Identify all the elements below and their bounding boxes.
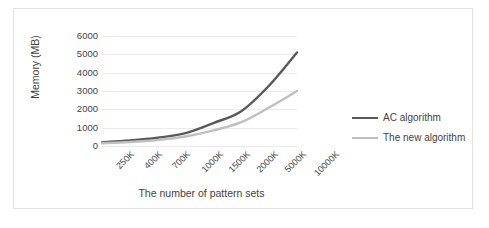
x-axis-tick-label: 2000K: [255, 149, 280, 174]
x-axis-tick-label: 5000K: [283, 149, 308, 174]
x-axis-tick-labels: 250K400K700K1000K1500K2000K5000K10000K: [102, 149, 297, 183]
y-axis-title: Memory (MB): [29, 25, 41, 109]
series-line: [102, 53, 297, 143]
legend-label: The new algorithm: [383, 132, 465, 144]
y-axis-tick-label: 6000: [60, 31, 98, 41]
x-axis-title: The number of pattern sets: [64, 187, 339, 199]
x-axis-tick-label: 1500K: [227, 149, 252, 174]
y-axis-tick-label: 3000: [60, 86, 98, 96]
gridline: [102, 146, 297, 147]
chart-legend: AC algorithmThe new algorithm: [352, 108, 482, 148]
y-axis-tick-label: 0: [60, 141, 98, 151]
x-axis-tick-label: 400K: [142, 149, 164, 171]
y-axis-tick-label: 4000: [60, 68, 98, 78]
legend-line-swatch: [352, 137, 378, 139]
y-axis-tick-label: 2000: [60, 104, 98, 114]
plot-area: [102, 36, 297, 146]
x-axis-tick-label: 1000K: [199, 149, 224, 174]
x-axis-tick-label: 10000K: [312, 149, 341, 178]
series-lines: [102, 36, 297, 146]
y-axis-tick-labels: 0100020003000400050006000: [60, 29, 98, 153]
x-axis-tick-label: 250K: [114, 149, 136, 171]
y-axis-tick-label: 1000: [60, 123, 98, 133]
legend-line-swatch: [352, 117, 378, 119]
legend-label: AC algorithm: [383, 112, 441, 124]
legend-entry[interactable]: The new algorithm: [352, 128, 482, 148]
y-axis-tick-label: 5000: [60, 49, 98, 59]
series-line: [102, 91, 297, 143]
legend-entry[interactable]: AC algorithm: [352, 108, 482, 128]
x-axis-tick-label: 700K: [170, 149, 192, 171]
chart-container: Memory (MB) 0100020003000400050006000 25…: [13, 8, 473, 209]
